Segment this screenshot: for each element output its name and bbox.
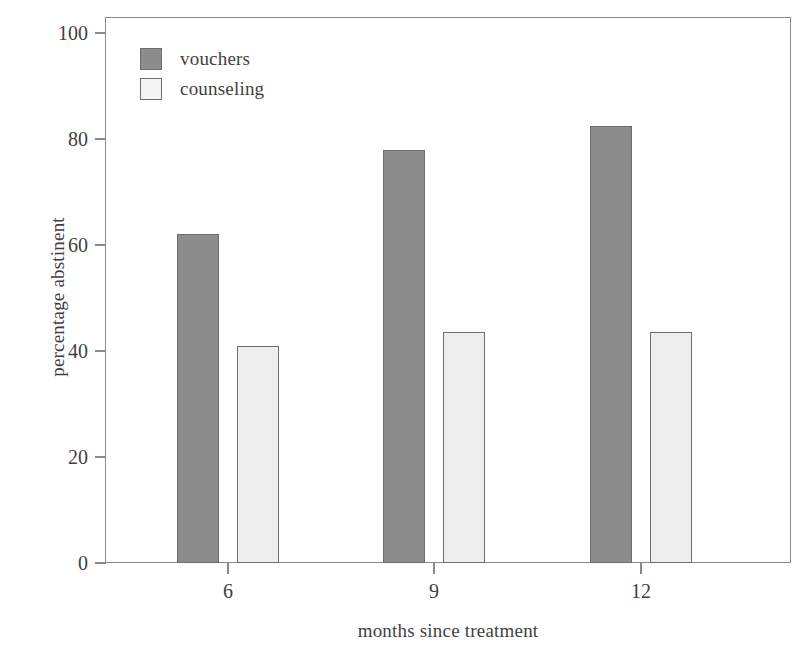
y-axis-tick: [95, 244, 106, 245]
y-axis-tick: [95, 562, 106, 563]
legend-item-vouchers: vouchers: [140, 44, 264, 74]
x-axis-tick-label: 12: [581, 580, 701, 602]
y-axis-tick: [95, 138, 106, 139]
legend-swatch-icon-vouchers: [140, 48, 162, 70]
y-axis-tick-label: 80: [28, 129, 88, 149]
legend-label-vouchers: vouchers: [180, 48, 250, 70]
x-axis-tick-label: 9: [374, 580, 494, 602]
x-axis-tick: [640, 563, 641, 574]
bar-counseling-6: [237, 346, 279, 563]
legend-label-counseling: counseling: [180, 78, 264, 100]
bar-counseling-12: [650, 332, 692, 563]
bar-vouchers-12: [590, 126, 632, 563]
y-axis-tick-label: 40: [28, 341, 88, 361]
x-axis-tick: [227, 563, 228, 574]
x-axis-title: months since treatment: [105, 620, 791, 642]
legend-item-counseling: counseling: [140, 74, 264, 104]
y-axis-tick-label: 20: [28, 447, 88, 467]
bar-vouchers-9: [383, 150, 425, 563]
y-axis-tick-label: 60: [28, 235, 88, 255]
y-axis-tick: [95, 32, 106, 33]
y-axis-tick-label: 100: [28, 23, 88, 43]
y-axis-title: percentage abstinent: [47, 147, 69, 447]
bar-chart: percentage abstinent 020406080100 6912 v…: [0, 0, 807, 663]
x-axis-tick: [433, 563, 434, 574]
y-axis-tick: [95, 456, 106, 457]
y-axis-tick: [95, 350, 106, 351]
x-axis-tick-label: 6: [168, 580, 288, 602]
legend: vouchers counseling: [140, 44, 264, 104]
bar-counseling-9: [443, 332, 485, 563]
legend-swatch-icon-counseling: [140, 78, 162, 100]
y-axis-tick-label: 0: [28, 553, 88, 573]
bar-vouchers-6: [177, 234, 219, 563]
